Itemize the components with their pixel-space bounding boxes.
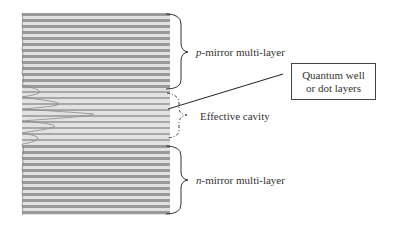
- p-mirror-label: p-mirror multi-layer: [196, 46, 285, 58]
- n-mirror-label-text: -mirror multi-layer: [202, 174, 285, 186]
- quantum-well-callout-box: Quantum well or dot layers: [291, 63, 376, 100]
- n-mirror-label: n-mirror multi-layer: [196, 174, 285, 186]
- p-mirror-label-text: -mirror multi-layer: [202, 46, 285, 58]
- quantum-well-label-line2: or dot layers: [306, 82, 361, 95]
- quantum-well-label-line1: Quantum well: [302, 69, 365, 82]
- effective-cavity-text: Effective cavity: [200, 110, 270, 122]
- multilayer-stripes: [22, 13, 170, 215]
- layer-stack-diagram: [0, 0, 397, 225]
- effective-cavity-label: Effective cavity: [200, 110, 270, 122]
- quantum-well-pointer-line: [168, 74, 283, 109]
